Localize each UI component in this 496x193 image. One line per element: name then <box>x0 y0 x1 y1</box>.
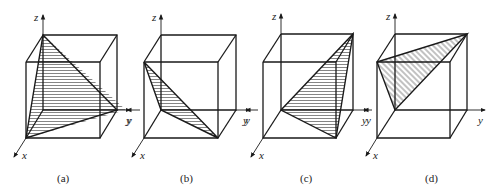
plane-outline-b <box>144 62 218 138</box>
z-label-a: z <box>33 11 39 23</box>
x-label-a: x <box>21 149 27 161</box>
z-label-b: z <box>151 11 157 23</box>
y-left-label-b: y <box>125 114 131 126</box>
caption-c: (c) <box>300 172 313 185</box>
caption-d: (d) <box>425 172 438 185</box>
caption-b: (b) <box>180 172 193 185</box>
y-left-label-d: y <box>365 114 371 126</box>
plane-triangle-c <box>281 34 353 138</box>
y-left-label-c: y <box>244 114 250 126</box>
z-label-c: z <box>271 10 277 22</box>
x-label-d: x <box>372 149 378 161</box>
y-label-d: y <box>477 114 483 126</box>
panel-d: z y y x (d) <box>364 10 485 185</box>
caption-a: (a) <box>57 172 70 185</box>
x-label-c: x <box>258 149 264 161</box>
panel-a: z y x (a) <box>14 11 132 185</box>
panel-c: z y y x (c) <box>244 10 368 185</box>
panel-b: z y y x (b) <box>125 11 250 185</box>
z-label-d: z <box>385 10 391 22</box>
crystal-planes-figure: z y x (a) z y y x (b) <box>0 0 496 193</box>
x-label-b: x <box>139 149 145 161</box>
